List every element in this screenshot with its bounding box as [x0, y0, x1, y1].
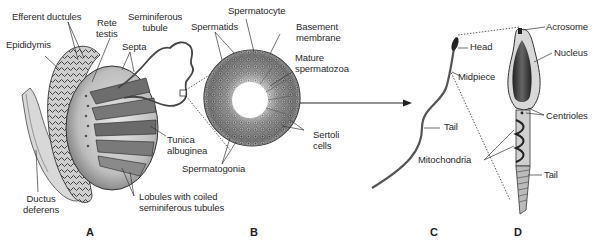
- label-spermatogonia: Spermatogonia: [182, 164, 245, 175]
- label-head: Head: [470, 42, 492, 53]
- label-mitochondria: Mitochondria: [418, 155, 471, 166]
- label-tail-c: Tail: [444, 122, 458, 133]
- testis-diagram: [22, 42, 230, 202]
- label-nucleus: Nucleus: [554, 48, 588, 59]
- label-sertoli-cells: Sertoli cells: [313, 130, 339, 151]
- panel-label-c: C: [430, 226, 438, 238]
- label-tunica-albuginea: Tunica albuginea: [167, 135, 207, 156]
- label-spermatids: Spermatids: [191, 22, 238, 33]
- label-spermatocyte: Spermatocyte: [228, 6, 285, 17]
- label-tail-d: Tail: [544, 170, 558, 181]
- enlarged-sperm: [508, 28, 540, 214]
- panel-label-d: D: [514, 226, 522, 238]
- label-lobules: Lobules with coiled seminiferous tubules: [139, 192, 224, 213]
- label-rete-testis: Rete testis: [96, 18, 118, 39]
- label-septa: Septa: [122, 42, 146, 53]
- panel-label-a: A: [86, 226, 94, 238]
- label-mature-spermatozoa: Mature spermatozoa: [295, 53, 349, 74]
- label-seminiferous-tubule: Seminiferous tubule: [128, 12, 182, 33]
- sperm-cell: [372, 27, 520, 200]
- label-epididymis: Epididymis: [6, 40, 51, 51]
- label-acrosome: Acrosome: [546, 22, 588, 33]
- label-basement-membrane: Basement membrane: [296, 22, 341, 43]
- label-ductus-deferens: Ductus deferens: [23, 194, 59, 215]
- label-efferent-ductules: Efferent ductules: [12, 12, 81, 23]
- reproductive-anatomy-figure: Efferent ductules Rete testis Epididymis…: [0, 0, 596, 247]
- label-midpiece: Midpiece: [458, 72, 495, 83]
- panel-label-b: B: [250, 226, 258, 238]
- label-centrioles: Centrioles: [546, 111, 588, 122]
